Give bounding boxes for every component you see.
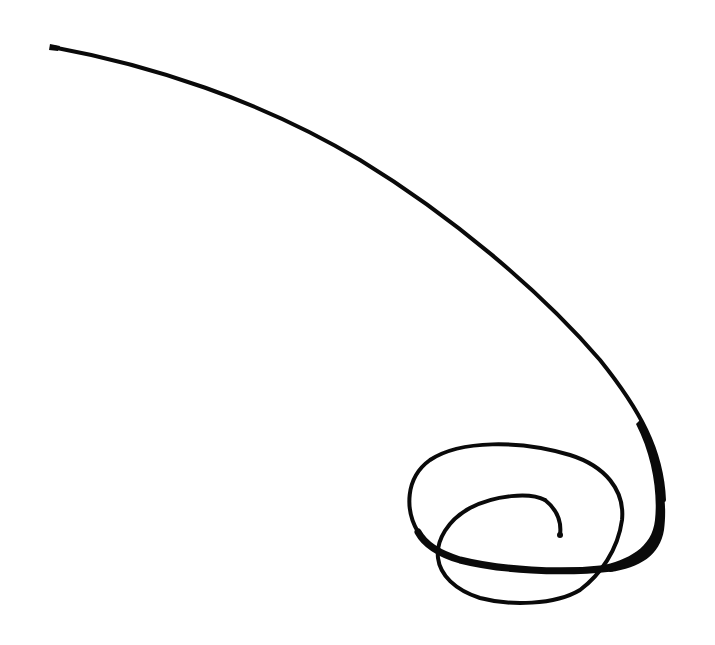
stroke-end-dot: [557, 532, 563, 538]
ink-stroke-drawing: [0, 0, 715, 645]
background: [0, 0, 715, 645]
drawing-canvas: Hand-drawn black ink calligraphic stroke…: [0, 0, 715, 645]
